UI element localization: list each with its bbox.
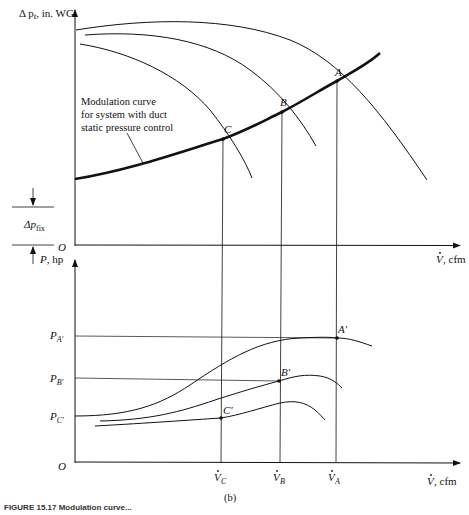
- lower-y-axis-label: P, hp: [39, 253, 64, 265]
- lower-origin-label: O: [58, 460, 66, 472]
- p-level-b: [75, 378, 279, 381]
- diagram-canvas: Δ pt, in. WG Modulation curve for system…: [0, 0, 469, 515]
- upper-origin-label: O: [58, 241, 66, 253]
- tick-v-b: V B: [273, 470, 285, 486]
- drop-line-a: [336, 81, 337, 462]
- p-c-prime-label: PC′: [49, 410, 64, 425]
- drop-line-b: [280, 112, 282, 462]
- tick-v-c: V C: [214, 470, 227, 486]
- svg-text:B: B: [280, 477, 285, 486]
- label-b: B: [280, 96, 287, 108]
- label-a-prime: A′: [337, 323, 348, 335]
- upper-plot: [12, 10, 460, 264]
- upper-y-axis-label: Δ pt, in. WG: [19, 7, 74, 21]
- p-b-prime-label: PB′: [49, 372, 64, 387]
- point-b-prime: [277, 379, 281, 383]
- annotation-leader: [127, 133, 143, 163]
- svg-text:, cfm: , cfm: [434, 475, 457, 487]
- upper-x-axis: [75, 245, 460, 246]
- panel-label: (b): [224, 492, 237, 504]
- delta-p-fix-label: Δpfix: [23, 218, 45, 233]
- svg-text:C: C: [221, 477, 227, 486]
- tick-v-a: V A: [328, 470, 340, 486]
- svg-text:A: A: [334, 477, 340, 486]
- lower-plot: [75, 260, 460, 463]
- annotation-line-2: for system with duct: [81, 109, 167, 120]
- p-a-prime-label: PA′: [49, 329, 64, 344]
- label-b-prime: B′: [281, 366, 291, 378]
- label-c: C: [224, 123, 232, 135]
- annotation-line-3: static pressure control: [81, 122, 173, 133]
- label-c-prime: C′: [223, 404, 233, 416]
- point-c-prime: [219, 416, 223, 420]
- lower-x-axis: [75, 462, 460, 463]
- drop-lines: [221, 81, 337, 462]
- lower-x-axis-label: V , cfm: [427, 474, 457, 487]
- figure-caption: FIGURE 15.17 Modulation curve...: [4, 503, 132, 512]
- upper-x-axis-label: V , cfm: [436, 252, 466, 265]
- annotation-line-1: Modulation curve: [81, 96, 156, 107]
- point-a-prime: [335, 336, 339, 340]
- label-a: A: [334, 66, 342, 78]
- power-curve-low: [95, 402, 325, 426]
- svg-text:, cfm: , cfm: [443, 253, 466, 265]
